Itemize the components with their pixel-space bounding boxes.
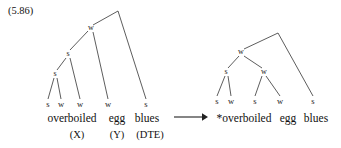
tree-leaf-label: s [215,97,218,106]
tree-word-label: egg [109,112,126,124]
tree-word-label: egg [280,112,297,124]
left-tree-edges [48,11,146,99]
tree-leaf-label: w [77,100,83,109]
tree-node-label: s [53,70,56,78]
tree-edge [278,33,313,96]
tree-leaf-label: s [144,100,147,109]
tree-edge [266,76,280,96]
tree-edge [118,11,146,99]
tree-edge [48,78,54,99]
tree-node-label: s [224,68,227,76]
tree-edge [244,56,262,68]
tree-edges-canvas [0,0,341,148]
tree-annotation-label: (Y) [110,129,125,140]
tree-edge [57,58,66,70]
tree-leaf-label: s [311,97,314,106]
tree-word-label: overboiled [47,112,96,124]
tree-edge [228,76,231,96]
tree-annotation-label: (X) [70,129,85,140]
tree-node-label: w [88,24,94,32]
tree-annotation-label: (DTE) [136,129,163,140]
tree-node-label: w [238,48,244,56]
tree-leaf-label: w [58,100,64,109]
tree-leaf-label: w [277,97,283,106]
metrical-tree-figure: (5.86) wssswwwsoverboiledeggblues(X)(Y)(… [0,0,341,148]
tree-edge [217,76,225,96]
tree-edge [70,31,88,50]
tree-edge [57,78,61,99]
tree-leaf-label: s [46,100,49,109]
tree-edge [93,32,108,99]
tree-edge [228,56,239,68]
tree-edge [255,76,262,96]
tree-word-label: blues [304,112,328,124]
rightwards-arrow-icon [173,110,209,124]
tree-node-label: w [261,68,267,76]
tree-edge [93,11,118,25]
transformation-arrow [173,110,209,124]
right-tree-edges [217,33,313,96]
tree-edge [70,58,80,99]
tree-leaf-label: w [105,100,111,109]
tree-edge [244,33,278,49]
tree-word-label: blues [135,112,159,124]
tree-leaf-label: s [253,97,256,106]
tree-leaf-label: w [228,97,234,106]
tree-node-label: s [66,50,69,58]
tree-word-label: *overboiled [217,112,272,124]
